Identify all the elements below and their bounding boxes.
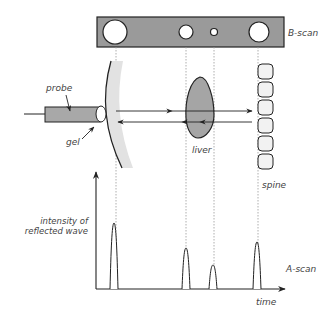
- b-scan-strip: [97, 17, 284, 47]
- pulse-spine: [253, 242, 261, 289]
- pulse-skin: [110, 223, 118, 289]
- skin-tissue-band: [106, 61, 133, 168]
- probe: [45, 107, 100, 122]
- echo-skin: [103, 20, 127, 44]
- echo-liver-front: [179, 25, 193, 39]
- a-scan-pulses: [110, 223, 261, 289]
- pulse-liver-back: [209, 265, 217, 289]
- a-scan-label: A-scan: [285, 264, 317, 274]
- pulse-liver-front: [182, 248, 190, 289]
- gel-label: gel: [66, 137, 80, 147]
- probe-label: probe: [45, 83, 73, 93]
- x-axis-label: time: [256, 297, 277, 307]
- spine: [258, 64, 273, 169]
- y-axis-label-line1: intensity of: [40, 216, 90, 226]
- ultrasound-diagram: B-scan probe gel liver spine inte: [0, 0, 322, 322]
- gel: [96, 106, 106, 122]
- liver-label: liver: [192, 145, 213, 155]
- echo-liver-back: [211, 29, 218, 36]
- y-axis-label-line2: reflected wave: [25, 226, 88, 236]
- liver: [186, 77, 214, 138]
- echo-spine: [249, 22, 269, 42]
- spine-label: spine: [262, 180, 287, 190]
- gel-pointer-arrow: [82, 127, 94, 139]
- b-scan-label: B-scan: [288, 28, 318, 38]
